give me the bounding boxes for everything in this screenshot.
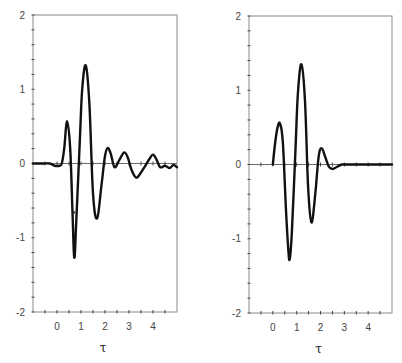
y-tick-label: 0 <box>235 159 241 170</box>
y-tick-label: 2 <box>235 11 241 22</box>
chart-canvas: -2-101201234τ -2-101201234τ <box>0 0 402 363</box>
y-tick-label: 1 <box>235 85 241 96</box>
waveform-curve <box>33 65 177 258</box>
data-marker <box>73 211 76 214</box>
x-tick-label: 3 <box>342 322 348 333</box>
y-tick-label: 1 <box>19 84 25 95</box>
x-tick-label: 1 <box>294 322 300 333</box>
y-tick-label: -2 <box>232 308 241 319</box>
x-tick-label: 1 <box>78 321 84 332</box>
y-tick-label: 0 <box>19 158 25 169</box>
x-tick-label: 2 <box>318 322 324 333</box>
x-axis-label: τ <box>315 342 322 356</box>
x-tick-label: 0 <box>54 321 60 332</box>
x-tick-label: 4 <box>365 322 371 333</box>
x-tick-label: 4 <box>150 321 156 332</box>
y-tick-label: -1 <box>232 233 241 244</box>
y-tick-label: -2 <box>16 307 25 318</box>
left-plot-panel: -2-101201234τ <box>16 10 177 356</box>
x-axis-label: τ <box>100 341 107 355</box>
waveform-curve <box>273 64 392 260</box>
x-tick-label: 2 <box>102 321 108 332</box>
y-tick-label: -1 <box>16 232 25 243</box>
right-plot-panel: -2-101201234τ <box>232 11 392 357</box>
x-tick-label: 0 <box>270 322 276 333</box>
y-tick-label: 2 <box>19 10 25 21</box>
x-tick-label: 3 <box>126 321 132 332</box>
